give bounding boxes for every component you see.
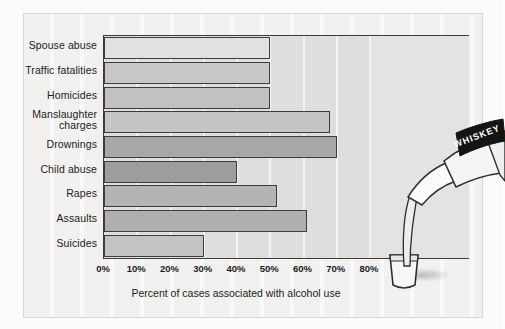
bar-row [104,87,370,109]
bar [104,210,307,232]
x-tick-label: 0% [96,263,110,274]
category-label: Drownings [46,139,97,150]
plot-area [103,35,370,259]
bar [104,62,270,84]
category-label: Rapes [66,188,97,199]
bar [104,235,204,257]
category-label: Traffic fatalities [25,65,97,76]
bar [104,136,337,158]
category-label: Assaults [57,213,97,224]
x-tick-label: 20% [160,263,179,274]
bar-row [104,37,370,59]
glass-shadow [392,268,452,282]
x-tick-label: 30% [193,263,212,274]
bar [104,37,270,59]
category-label: Manslaughter charges [32,109,97,131]
category-label: Suicides [57,238,98,249]
bar [104,185,277,207]
x-tick-label: 60% [293,263,312,274]
x-axis-title: Percent of cases associated with alcohol… [103,287,369,299]
bar [104,87,270,109]
bar [104,111,330,133]
bar-row [104,136,370,158]
x-tick-label: 40% [226,263,245,274]
x-tick-label: 50% [260,263,279,274]
plot-right-field [369,35,469,259]
category-label: Homicides [47,90,97,101]
bar-row [104,235,370,257]
bar [104,161,237,183]
bar-row [104,62,370,84]
bar-row [104,185,370,207]
category-label: Spouse abuse [29,40,97,51]
bar-row [104,161,370,183]
bar-row [104,111,370,133]
x-tick-label: 10% [127,263,146,274]
x-tick-label: 80% [359,263,378,274]
x-tick-label: 70% [326,263,345,274]
category-label: Child abuse [40,164,97,175]
bar-row [104,210,370,232]
